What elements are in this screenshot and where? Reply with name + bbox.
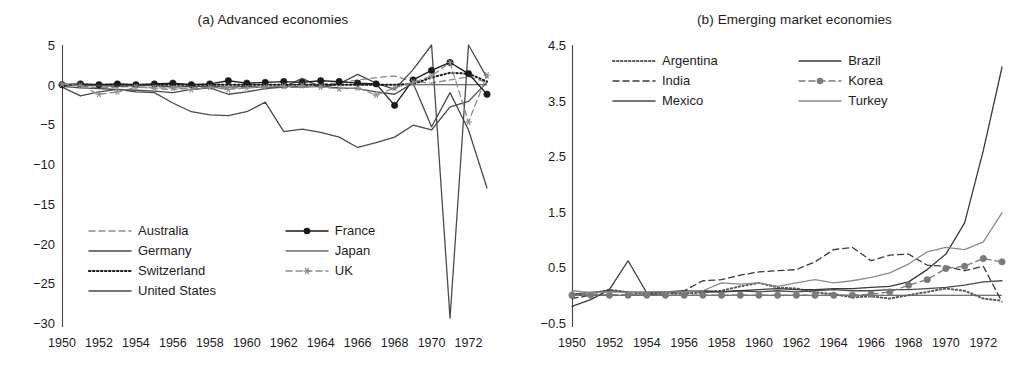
x-axis-tick-label: 1956 — [670, 336, 698, 350]
legend-item-japan[interactable]: Japan — [285, 242, 418, 259]
data-point-marker — [281, 78, 287, 84]
x-axis-tick-label: 1968 — [895, 336, 923, 350]
x-axis-tick-label: 1968 — [381, 336, 409, 350]
y-axis-tick-label: −10 — [33, 157, 55, 172]
legend-item-india[interactable]: India — [612, 72, 772, 89]
data-point-marker — [317, 78, 323, 84]
x-axis-tick-label: 1952 — [595, 336, 623, 350]
legend-panel-b: ArgentinaBrazilIndiaKoreaMexicoTurkey — [612, 52, 942, 109]
legend-swatch-icon — [88, 265, 132, 277]
legend-grid: ArgentinaBrazilIndiaKoreaMexicoTurkey — [612, 52, 942, 109]
legend-item-label: India — [662, 72, 690, 89]
legend-panel-a: AustraliaFranceGermanyJapanSwitzerlandUK… — [88, 222, 418, 299]
data-point-marker — [373, 92, 380, 98]
page-title-panel-b: (b) Emerging market economies — [516, 12, 1033, 27]
x-axis-tick-label: 1964 — [820, 336, 848, 350]
y-axis-ticks-panel-b: 4.53.52.51.50.5−0.5 — [516, 45, 566, 323]
legend-item-australia[interactable]: Australia — [88, 222, 259, 239]
data-point-marker — [831, 292, 837, 298]
y-axis-tick-label: 0 — [48, 77, 55, 92]
data-point-marker — [737, 292, 743, 298]
legend-swatch-icon — [612, 55, 656, 67]
data-point-marker — [793, 292, 799, 298]
x-axis-tick-label: 1950 — [558, 336, 586, 350]
data-point-marker — [980, 255, 986, 261]
series-line-united-states — [62, 82, 487, 147]
y-axis-tick-label: −15 — [33, 196, 55, 211]
data-point-marker — [961, 263, 967, 269]
data-point-marker — [373, 81, 379, 87]
y-axis-tick-label: 1.5 — [548, 204, 566, 219]
legend-item-label: Switzerland — [138, 262, 205, 279]
data-point-marker — [718, 292, 724, 298]
legend-item-germany[interactable]: Germany — [88, 242, 259, 259]
data-point-marker — [336, 78, 342, 84]
legend-item-label: Mexico — [662, 92, 703, 109]
data-point-marker — [943, 265, 949, 271]
legend-item-label: Australia — [138, 222, 189, 239]
x-axis-tick-label: 1972 — [969, 336, 997, 350]
data-point-marker — [756, 292, 762, 298]
data-point-marker — [170, 80, 176, 86]
legend-item-uk[interactable]: UK — [285, 262, 418, 279]
data-point-marker — [354, 80, 360, 86]
x-axis-tick-label: 1958 — [196, 336, 224, 350]
x-axis-tick-label: 1952 — [85, 336, 113, 350]
x-axis-ticks-panel-a: 1950195219541956195819601962196419661968… — [62, 336, 487, 356]
x-axis-tick-label: 1972 — [455, 336, 483, 350]
legend-item-label: France — [335, 222, 375, 239]
y-axis-tick-label: 2.5 — [548, 149, 566, 164]
x-axis-tick-label: 1954 — [633, 336, 661, 350]
legend-item-korea[interactable]: Korea — [798, 72, 942, 89]
data-point-marker — [336, 86, 343, 92]
y-axis-tick-label: −20 — [33, 236, 55, 251]
legend-item-label: Germany — [138, 242, 191, 259]
x-axis-tick-label: 1956 — [159, 336, 187, 350]
x-axis-tick-label: 1970 — [418, 336, 446, 350]
x-axis-tick-label: 1958 — [708, 336, 736, 350]
data-point-marker — [999, 259, 1005, 265]
legend-item-argentina[interactable]: Argentina — [612, 52, 772, 69]
data-point-marker — [569, 292, 575, 298]
data-point-marker — [225, 78, 231, 84]
data-point-marker — [905, 282, 911, 288]
y-axis-tick-label: 4.5 — [548, 38, 566, 53]
data-point-marker — [244, 80, 250, 86]
data-point-marker — [262, 79, 268, 85]
legend-item-switzerland[interactable]: Switzerland — [88, 262, 259, 279]
y-axis-tick-label: 3.5 — [548, 93, 566, 108]
y-axis-tick-label: 5 — [48, 38, 55, 53]
data-point-marker — [924, 276, 930, 282]
data-point-marker — [484, 91, 490, 97]
y-axis-tick-label: −30 — [33, 316, 55, 331]
series-line-uk — [62, 62, 487, 122]
x-axis-tick-label: 1964 — [307, 336, 335, 350]
x-axis-tick-label: 1966 — [344, 336, 372, 350]
data-point-marker — [662, 292, 668, 298]
data-point-marker — [391, 102, 397, 108]
x-axis-tick-label: 1966 — [857, 336, 885, 350]
data-point-marker — [644, 292, 650, 298]
y-axis-tick-label: −0.5 — [540, 316, 566, 331]
legend-swatch-icon — [285, 265, 329, 277]
legend-grid: AustraliaFranceGermanyJapanSwitzerlandUK… — [88, 222, 418, 299]
x-axis-tick-label: 1950 — [48, 336, 76, 350]
legend-item-france[interactable]: France — [285, 222, 418, 239]
y-axis-tick-label: −25 — [33, 276, 55, 291]
legend-swatch-icon — [798, 95, 842, 107]
x-axis-tick-label: 1970 — [932, 336, 960, 350]
legend-item-turkey[interactable]: Turkey — [798, 92, 942, 109]
legend-item-label: Brazil — [848, 52, 881, 69]
legend-item-mexico[interactable]: Mexico — [612, 92, 772, 109]
legend-swatch-icon — [88, 225, 132, 237]
figure-root: (a) Advanced economies 50−5−10−15−20−25−… — [0, 0, 1033, 374]
legend-item-label: United States — [138, 282, 216, 299]
legend-item-brazil[interactable]: Brazil — [798, 52, 942, 69]
data-point-marker — [868, 291, 874, 297]
y-axis-tick-label: 0.5 — [548, 260, 566, 275]
legend-item-label: Turkey — [848, 92, 887, 109]
legend-item-label: Korea — [848, 72, 883, 89]
legend-item-united-states[interactable]: United States — [88, 282, 259, 299]
legend-swatch-icon — [612, 75, 656, 87]
data-point-marker — [849, 292, 855, 298]
